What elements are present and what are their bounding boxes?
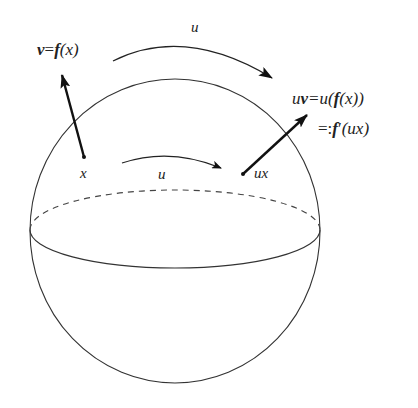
label-v-definition: v=f(x) [37, 40, 79, 59]
outer-action-arrow [113, 46, 272, 78]
label-inner-u: u [158, 166, 166, 182]
symbol-args: (x)) [339, 89, 364, 108]
label-uv-definition: uv=u(f(x)) [292, 89, 364, 108]
equator-front [30, 230, 320, 268]
label-outer-u: u [191, 19, 199, 35]
symbol-eq-u: =u( [308, 89, 335, 108]
label-point-x: x [79, 165, 87, 181]
label-point-ux: ux [254, 165, 269, 181]
symbol-defeq: =: [318, 119, 332, 138]
sphere-outline [30, 79, 320, 383]
sphere-diagram: u u x ux v=f(x) uv=u(f(x)) =:f′(ux) [0, 0, 418, 408]
label-fprime-definition: =:f′(ux) [318, 119, 369, 138]
diagram-canvas: u u x ux v=f(x) uv=u(f(x)) =:f′(ux) [0, 0, 418, 408]
point-ux [241, 172, 245, 176]
equator-back-dashed [30, 190, 320, 230]
symbol-u: u [292, 89, 301, 108]
symbol-args: (ux) [342, 119, 370, 138]
symbol-args: (x) [60, 40, 79, 59]
point-x [82, 155, 86, 159]
inner-action-arrow [122, 156, 221, 168]
symbol-eq: = [45, 40, 55, 59]
vector-uv [243, 115, 307, 174]
